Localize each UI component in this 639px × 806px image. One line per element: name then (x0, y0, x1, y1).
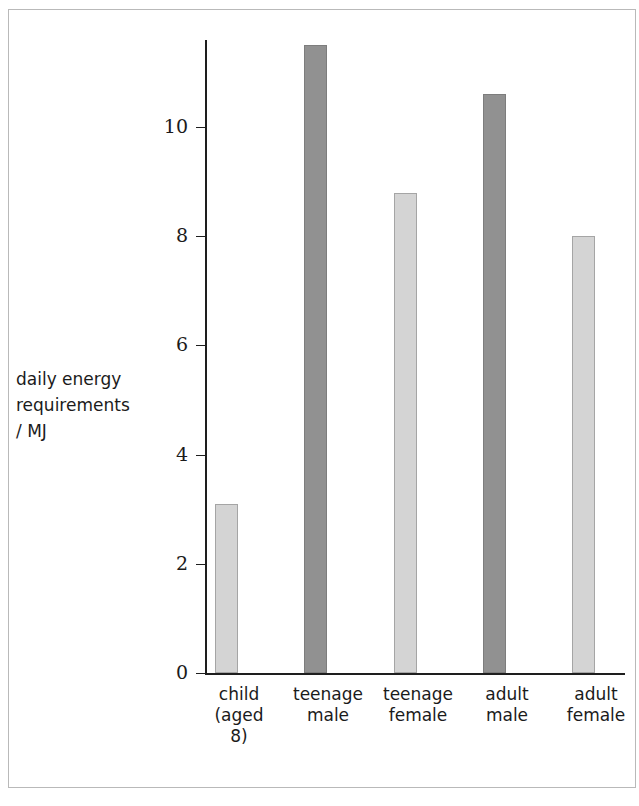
x-axis-label-line: female (553, 705, 639, 726)
y-tick-label: 10 (140, 117, 188, 136)
y-tick-mark (196, 455, 205, 456)
bar (304, 45, 327, 673)
bar (483, 94, 506, 673)
y-axis-title-line-3: / MJ (16, 418, 166, 444)
y-tick-label: 6 (140, 335, 188, 354)
x-axis-label-line: male (285, 705, 371, 726)
x-axis-label: child(aged8) (196, 684, 282, 747)
y-tick-mark (196, 127, 205, 128)
y-axis-title-line-1: daily energy (16, 366, 166, 392)
y-tick-label: 2 (140, 554, 188, 573)
x-axis-label-line: (aged (196, 705, 282, 726)
y-tick-label: 4 (140, 445, 188, 464)
x-axis-label: adultmale (464, 684, 550, 726)
y-axis-title-line-2: requirements (16, 392, 166, 418)
y-axis-line (205, 40, 207, 675)
x-axis-label: teenagefemale (375, 684, 461, 726)
x-axis-label-line: male (464, 705, 550, 726)
chart-page: 0246810 child(aged8)teenagemaleteenagefe… (0, 0, 639, 806)
x-axis-label-line: female (375, 705, 461, 726)
x-axis-label: teenagemale (285, 684, 371, 726)
y-tick-mark (196, 564, 205, 565)
x-axis-line (205, 673, 625, 675)
bar-chart-plot: 0246810 child(aged8)teenagemaleteenagefe… (0, 0, 639, 806)
y-tick-label: 0 (140, 663, 188, 682)
y-tick-mark (196, 236, 205, 237)
bar (572, 236, 595, 673)
bar (394, 193, 417, 673)
y-tick-mark (196, 673, 205, 674)
x-axis-label-line: adult (553, 684, 639, 705)
y-tick-mark (196, 345, 205, 346)
y-tick-label: 8 (140, 226, 188, 245)
x-axis-label-line: teenage (285, 684, 371, 705)
y-axis-title: daily energy requirements / MJ (16, 366, 166, 444)
x-axis-label-line: child (196, 684, 282, 705)
x-axis-label-line: adult (464, 684, 550, 705)
x-axis-label-line: teenage (375, 684, 461, 705)
bar (215, 504, 238, 673)
x-axis-label-line: 8) (196, 726, 282, 747)
x-axis-label: adultfemale (553, 684, 639, 726)
